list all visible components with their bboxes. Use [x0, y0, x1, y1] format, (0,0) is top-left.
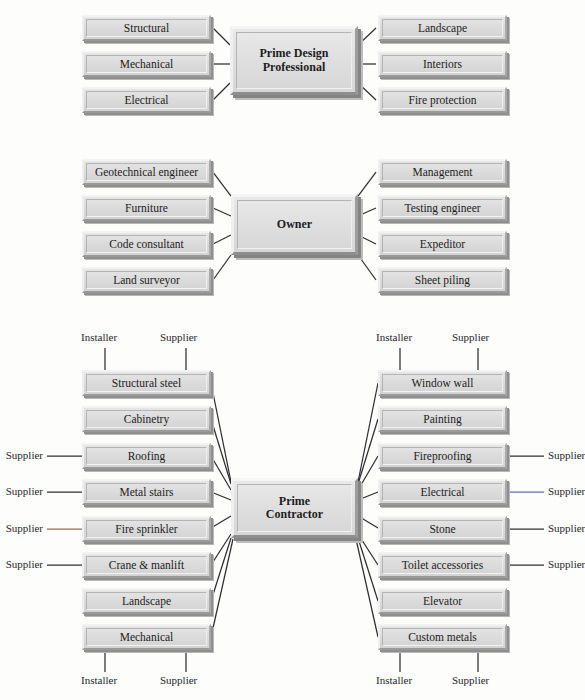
- edge-electrical-3: [358, 492, 378, 500]
- edge-elevator: [358, 538, 378, 601]
- node-furniture[interactable]: Furniture: [82, 195, 211, 221]
- node-toilet-accessories[interactable]: Toilet accessories: [378, 552, 507, 578]
- label-bottom-left-installer: Installer: [81, 674, 117, 686]
- hub-label-line1: Prime Design: [260, 46, 329, 60]
- edge-fireproofing: [358, 456, 378, 490]
- hub-prime-contractor[interactable]: Prime Contractor: [231, 478, 358, 538]
- node-geotechnical-engineer[interactable]: Geotechnical engineer: [82, 159, 211, 185]
- node-structural[interactable]: Structural: [82, 15, 211, 41]
- node-interiors[interactable]: Interiors: [378, 51, 507, 77]
- edge-expeditor: [358, 235, 376, 244]
- label-side-left-supplier-3: Supplier: [3, 522, 43, 534]
- label-top-right-installer: Installer: [376, 331, 412, 343]
- edge-land-surveyor: [213, 255, 231, 280]
- edge-metal-stairs: [211, 492, 231, 500]
- label-side-right-supplier-4: Supplier: [548, 558, 585, 570]
- node-label: Cabinetry: [120, 413, 173, 426]
- node-fireproofing[interactable]: Fireproofing: [378, 443, 507, 469]
- hub-label-line2: Contractor: [266, 507, 323, 521]
- edge-crane-manlift: [211, 534, 231, 565]
- node-painting[interactable]: Painting: [378, 406, 507, 432]
- diagram-canvas: Structural Mechanical Electrical Prime D…: [0, 0, 585, 700]
- node-window-wall[interactable]: Window wall: [378, 370, 507, 396]
- node-label: Fireproofing: [409, 450, 475, 463]
- edge-management: [358, 172, 376, 196]
- label-side-right-supplier-2: Supplier: [548, 485, 585, 497]
- label-side-left-supplier-2: Supplier: [3, 485, 43, 497]
- node-mechanical[interactable]: Mechanical: [82, 51, 211, 77]
- node-electrical[interactable]: Electrical: [82, 87, 211, 113]
- edge-landscape-1: [358, 28, 376, 45]
- edge-roofing: [211, 456, 231, 490]
- hub-prime-design-professional[interactable]: Prime Design Professional: [230, 26, 358, 95]
- edge-painting: [358, 419, 378, 484]
- node-label: Furniture: [121, 202, 172, 215]
- node-label: Structural: [120, 22, 173, 35]
- node-label: Sheet piling: [411, 274, 474, 287]
- node-structural-steel[interactable]: Structural steel: [82, 370, 211, 396]
- node-roofing[interactable]: Roofing: [82, 443, 211, 469]
- hub-label: Prime Design Professional: [256, 47, 333, 74]
- label-top-left-supplier: Supplier: [160, 331, 197, 343]
- edge-stone: [358, 516, 378, 528]
- edge-fire-sprinkler: [211, 516, 231, 528]
- label-side-right-supplier-1: Supplier: [548, 449, 585, 461]
- label-top-left-installer: Installer: [81, 331, 117, 343]
- edge-toilet-accessories: [358, 534, 378, 565]
- node-cabinetry[interactable]: Cabinetry: [82, 406, 211, 432]
- label-top-right-supplier: Supplier: [452, 331, 489, 343]
- edge-fireprotection: [358, 83, 376, 100]
- node-crane-manlift[interactable]: Crane & manlift: [82, 552, 211, 578]
- hub-label: Owner: [273, 218, 316, 231]
- edge-structural-steel: [211, 383, 231, 482]
- node-label: Electrical: [416, 486, 468, 499]
- node-label: Interiors: [419, 58, 466, 71]
- node-label: Elevator: [419, 595, 466, 608]
- edge-structural: [213, 28, 230, 45]
- node-label: Toilet accessories: [398, 559, 487, 572]
- label-side-left-supplier-4: Supplier: [3, 558, 43, 570]
- node-sheet-piling[interactable]: Sheet piling: [378, 267, 507, 293]
- node-label: Testing engineer: [400, 202, 484, 215]
- edge-furniture: [213, 208, 231, 216]
- hub-label-line2: Professional: [263, 60, 325, 74]
- hub-label-line1: Prime: [279, 494, 310, 508]
- edge-custom-metals: [356, 539, 378, 637]
- edge-geotechnical: [213, 172, 231, 196]
- node-landscape-contractor[interactable]: Landscape: [82, 588, 211, 614]
- node-custom-metals[interactable]: Custom metals: [378, 624, 507, 650]
- node-label: Structural steel: [108, 377, 185, 390]
- node-label: Code consultant: [105, 238, 187, 251]
- label-bottom-left-supplier: Supplier: [160, 674, 197, 686]
- node-label: Landscape: [414, 22, 471, 35]
- hub-owner[interactable]: Owner: [231, 194, 358, 255]
- node-land-surveyor[interactable]: Land surveyor: [82, 267, 211, 293]
- label-bottom-right-supplier: Supplier: [452, 674, 489, 686]
- node-expeditor[interactable]: Expeditor: [378, 231, 507, 257]
- node-mechanical-contractor[interactable]: Mechanical: [82, 624, 211, 650]
- edge-testing-engineer: [358, 208, 376, 216]
- node-metal-stairs[interactable]: Metal stairs: [82, 479, 211, 505]
- node-label: Expeditor: [416, 238, 469, 251]
- node-landscape-design[interactable]: Landscape: [378, 15, 507, 41]
- node-electrical-contractor[interactable]: Electrical: [378, 479, 507, 505]
- node-fire-sprinkler[interactable]: Fire sprinkler: [82, 516, 211, 542]
- hub-label: Prime Contractor: [262, 495, 327, 522]
- node-management[interactable]: Management: [378, 159, 507, 185]
- node-label: Stone: [425, 523, 459, 536]
- node-elevator[interactable]: Elevator: [378, 588, 507, 614]
- node-label: Metal stairs: [116, 486, 178, 499]
- edge-mechanical-3: [211, 539, 233, 637]
- label-side-right-supplier-3: Supplier: [548, 522, 585, 534]
- edge-landscape-3: [211, 538, 231, 601]
- node-testing-engineer[interactable]: Testing engineer: [378, 195, 507, 221]
- node-fire-protection[interactable]: Fire protection: [378, 87, 507, 113]
- edge-electrical: [213, 83, 230, 100]
- node-code-consultant[interactable]: Code consultant: [82, 231, 211, 257]
- label-bottom-right-installer: Installer: [376, 674, 412, 686]
- node-label: Roofing: [124, 450, 170, 463]
- node-label: Mechanical: [116, 58, 178, 71]
- edge-sheet-piling: [358, 255, 376, 280]
- node-stone[interactable]: Stone: [378, 516, 507, 542]
- edge-window-wall: [358, 383, 378, 482]
